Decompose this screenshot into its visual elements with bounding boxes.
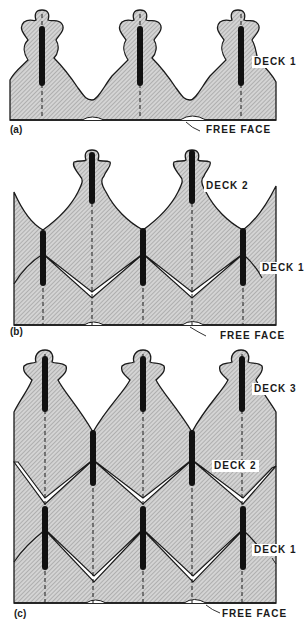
panel-a-deck1-label: DECK 1	[252, 56, 299, 68]
panel-c-deck1-charge-1	[42, 506, 48, 570]
panel-b-deck1-charge-2	[140, 228, 146, 286]
panel-c	[14, 350, 276, 613]
panel-c-deck1-charge-2	[140, 506, 146, 570]
panel-b-tag: (b)	[10, 326, 23, 338]
panel-c-deck1-charge-3	[240, 506, 246, 570]
blast-deck-diagram	[0, 0, 308, 624]
panel-a-charge-2	[137, 26, 143, 86]
panel-c-deck3-charge-3	[239, 356, 245, 412]
panel-c-deck3-label: DECK 3	[252, 383, 299, 395]
panel-b-deck2-charge-2	[189, 150, 195, 204]
panel-c-tag: (c)	[14, 608, 26, 620]
panel-a-free-face-label: FREE FACE	[204, 124, 273, 136]
panel-a	[10, 10, 276, 131]
panel-c-deck2-charge-2	[189, 430, 195, 486]
panel-b-free-face-label: FREE FACE	[218, 330, 287, 342]
panel-a-charge-3	[238, 26, 244, 86]
panel-b-deck2-charge-1	[89, 152, 95, 204]
panel-b-deck1-label: DECK 1	[260, 262, 307, 274]
panel-c-deck2-charge-1	[90, 430, 96, 486]
panel-c-deck2-label: DECK 2	[212, 460, 259, 472]
panel-c-free-face-label: FREE FACE	[220, 608, 289, 620]
panel-c-deck3-charge-1	[42, 356, 48, 412]
panel-b-deck1-charge-1	[40, 230, 46, 286]
panel-a-tag: (a)	[10, 124, 22, 136]
panel-b-deck2-label: DECK 2	[204, 180, 251, 192]
panel-b	[14, 150, 276, 336]
panel-c-deck3-charge-2	[140, 356, 146, 412]
panel-a-charge-1	[39, 26, 45, 86]
panel-c-deck1-label: DECK 1	[252, 544, 299, 556]
panel-b-deck1-charge-3	[240, 228, 246, 286]
